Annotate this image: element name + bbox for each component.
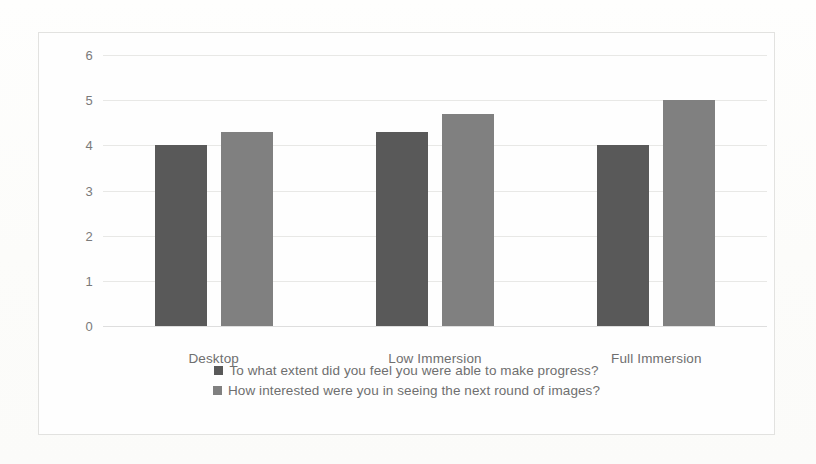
bar-group-desktop bbox=[155, 55, 273, 326]
chart-legend: To what extent did you feel you were abl… bbox=[39, 363, 774, 398]
legend-swatch-icon-series-1 bbox=[213, 386, 222, 395]
legend-item-series-1: How interested were you in seeing the ne… bbox=[213, 383, 600, 398]
bar-desktop-series-0 bbox=[155, 145, 207, 326]
bar-desktop-series-1 bbox=[221, 132, 273, 326]
bar-group-full-immersion bbox=[597, 55, 715, 326]
bar-low-immersion-series-1 bbox=[442, 114, 494, 326]
legend-swatch-icon-series-0 bbox=[214, 366, 223, 375]
y-tick-label-2: 2 bbox=[67, 228, 93, 243]
y-tick-label-4: 4 bbox=[67, 138, 93, 153]
bar-series-container bbox=[103, 55, 767, 326]
y-tick-label-3: 3 bbox=[67, 183, 93, 198]
legend-label-series-0: To what extent did you feel you were abl… bbox=[229, 363, 598, 378]
bar-full-immersion-series-0 bbox=[597, 145, 649, 326]
bar-group-low-immersion bbox=[376, 55, 494, 326]
gridline-0 bbox=[103, 326, 767, 327]
y-tick-label-0: 0 bbox=[67, 319, 93, 334]
y-tick-label-6: 6 bbox=[67, 48, 93, 63]
y-tick-label-1: 1 bbox=[67, 273, 93, 288]
legend-label-series-1: How interested were you in seeing the ne… bbox=[228, 383, 600, 398]
bar-full-immersion-series-1 bbox=[663, 100, 715, 326]
plot-area: 0123456 DesktopLow ImmersionFull Immersi… bbox=[67, 55, 767, 326]
chart-frame: 0123456 DesktopLow ImmersionFull Immersi… bbox=[38, 32, 775, 435]
legend-item-series-0: To what extent did you feel you were abl… bbox=[214, 363, 598, 378]
bar-low-immersion-series-0 bbox=[376, 132, 428, 326]
y-tick-label-5: 5 bbox=[67, 93, 93, 108]
